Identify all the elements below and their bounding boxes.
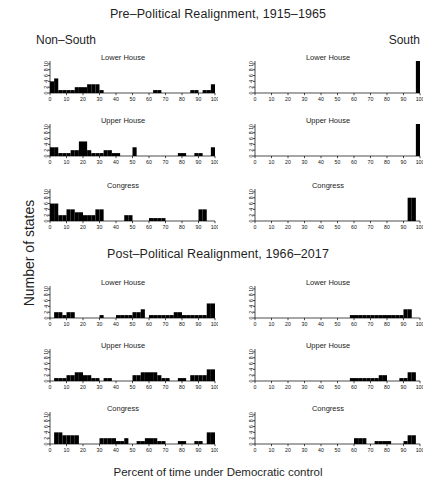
svg-text:10: 10 <box>64 159 70 165</box>
svg-text:50: 50 <box>335 384 341 390</box>
svg-text:90: 90 <box>196 321 202 327</box>
svg-text:40: 40 <box>113 447 119 453</box>
svg-text:8: 8 <box>43 196 49 199</box>
svg-text:20: 20 <box>285 447 291 453</box>
svg-text:0: 0 <box>248 219 254 222</box>
svg-text:4: 4 <box>43 143 49 146</box>
svg-text:60: 60 <box>146 96 152 102</box>
svg-text:6: 6 <box>248 425 254 428</box>
svg-text:6: 6 <box>43 202 49 205</box>
svg-text:0: 0 <box>43 219 49 222</box>
section-title-pre-realignment: Pre–Political Realignment, 1915–1965 <box>0 7 436 21</box>
svg-text:0: 0 <box>43 316 49 319</box>
svg-text:0: 0 <box>43 379 49 382</box>
svg-text:10: 10 <box>64 384 70 390</box>
svg-text:0: 0 <box>248 442 254 445</box>
svg-text:8: 8 <box>248 131 254 134</box>
svg-text:6: 6 <box>43 137 49 140</box>
svg-text:30: 30 <box>302 447 308 453</box>
svg-text:100: 100 <box>211 159 218 165</box>
svg-text:60: 60 <box>351 384 357 390</box>
svg-text:100: 100 <box>416 96 423 102</box>
svg-text:8: 8 <box>248 419 254 422</box>
svg-text:30: 30 <box>97 96 103 102</box>
column-label-south: South <box>389 33 420 47</box>
svg-text:0: 0 <box>254 384 257 390</box>
svg-text:6: 6 <box>43 362 49 365</box>
svg-text:0: 0 <box>49 384 52 390</box>
svg-text:0: 0 <box>248 316 254 319</box>
svg-text:0: 0 <box>254 159 257 165</box>
svg-text:10: 10 <box>64 224 70 230</box>
svg-text:20: 20 <box>80 96 86 102</box>
svg-text:20: 20 <box>285 321 291 327</box>
svg-text:70: 70 <box>368 159 374 165</box>
svg-text:50: 50 <box>335 96 341 102</box>
svg-text:90: 90 <box>196 384 202 390</box>
svg-text:10: 10 <box>248 189 254 195</box>
svg-text:0: 0 <box>49 96 52 102</box>
svg-text:0: 0 <box>49 224 52 230</box>
svg-text:10: 10 <box>248 61 254 67</box>
svg-text:80: 80 <box>179 96 185 102</box>
svg-text:10: 10 <box>43 412 49 418</box>
svg-text:2: 2 <box>248 214 254 217</box>
svg-text:4: 4 <box>43 208 49 211</box>
svg-text:0: 0 <box>43 442 49 445</box>
svg-text:70: 70 <box>163 224 169 230</box>
svg-text:30: 30 <box>302 321 308 327</box>
svg-text:8: 8 <box>248 356 254 359</box>
svg-text:8: 8 <box>43 68 49 71</box>
svg-text:80: 80 <box>179 384 185 390</box>
svg-text:10: 10 <box>248 412 254 418</box>
svg-text:4: 4 <box>248 431 254 434</box>
panel-post-south-upper: 01020304050607080901000246810Upper House <box>233 340 423 392</box>
svg-text:6: 6 <box>248 74 254 77</box>
svg-text:10: 10 <box>43 349 49 355</box>
svg-text:0: 0 <box>43 91 49 94</box>
panel-post-nonsouth-upper: 01020304050607080901000246810Upper House <box>28 340 218 392</box>
svg-text:50: 50 <box>130 96 136 102</box>
svg-text:30: 30 <box>97 384 103 390</box>
svg-text:4: 4 <box>43 305 49 308</box>
svg-text:30: 30 <box>97 159 103 165</box>
svg-text:80: 80 <box>384 321 390 327</box>
svg-text:10: 10 <box>248 124 254 130</box>
svg-text:80: 80 <box>384 447 390 453</box>
svg-text:60: 60 <box>146 159 152 165</box>
svg-text:20: 20 <box>80 447 86 453</box>
column-label-non-south: Non–South <box>36 33 96 47</box>
svg-text:100: 100 <box>211 384 218 390</box>
svg-text:90: 90 <box>196 224 202 230</box>
svg-text:2: 2 <box>248 311 254 314</box>
svg-text:60: 60 <box>351 224 357 230</box>
svg-text:10: 10 <box>43 61 49 67</box>
svg-text:10: 10 <box>64 321 70 327</box>
svg-text:60: 60 <box>146 321 152 327</box>
svg-text:100: 100 <box>211 96 218 102</box>
svg-text:6: 6 <box>248 202 254 205</box>
svg-text:80: 80 <box>179 159 185 165</box>
svg-text:2: 2 <box>43 374 49 377</box>
svg-text:80: 80 <box>384 96 390 102</box>
svg-text:100: 100 <box>416 384 423 390</box>
panel-post-south-congress: 01020304050607080901000246810Congress <box>233 403 423 455</box>
svg-text:60: 60 <box>351 447 357 453</box>
svg-text:0: 0 <box>254 321 257 327</box>
svg-text:0: 0 <box>254 224 257 230</box>
svg-text:2: 2 <box>43 149 49 152</box>
svg-text:80: 80 <box>384 384 390 390</box>
svg-text:0: 0 <box>248 379 254 382</box>
svg-text:40: 40 <box>113 384 119 390</box>
svg-text:40: 40 <box>318 321 324 327</box>
svg-text:2: 2 <box>43 214 49 217</box>
svg-text:4: 4 <box>43 368 49 371</box>
svg-text:100: 100 <box>211 447 218 453</box>
figure-histogram-grid: Pre–Political Realignment, 1915–1965 Pos… <box>0 0 436 491</box>
svg-text:50: 50 <box>130 321 136 327</box>
svg-text:50: 50 <box>335 321 341 327</box>
svg-text:10: 10 <box>269 96 275 102</box>
svg-text:40: 40 <box>113 224 119 230</box>
svg-text:10: 10 <box>248 286 254 292</box>
svg-text:60: 60 <box>351 96 357 102</box>
